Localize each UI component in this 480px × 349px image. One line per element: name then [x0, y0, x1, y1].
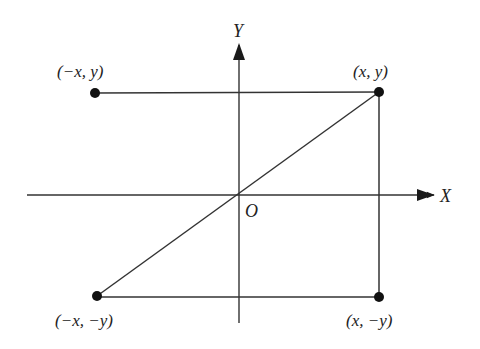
y-axis-label: Y: [233, 21, 245, 41]
point-x-y: [374, 87, 384, 97]
point-label-negx-negy: (−x, −y): [55, 311, 113, 330]
point-negx-y: [90, 88, 100, 98]
segment-diagonal: [97, 92, 379, 296]
point-label-negx-y: (−x, y): [57, 62, 104, 81]
origin-label: O: [245, 201, 258, 221]
point-label-x-y: (x, y): [353, 62, 388, 81]
x-axis-arrow-icon: [417, 189, 434, 201]
point-x-negy: [374, 292, 384, 302]
y-axis-arrow-icon: [233, 43, 245, 60]
coordinate-diagram: Y X O (x, y) (−x, y) (−x, −y) (x, −y): [0, 0, 480, 349]
segment-top: [95, 92, 379, 93]
x-axis-label: X: [439, 186, 452, 206]
point-label-x-negy: (x, −y): [346, 311, 393, 330]
point-negx-negy: [92, 291, 102, 301]
